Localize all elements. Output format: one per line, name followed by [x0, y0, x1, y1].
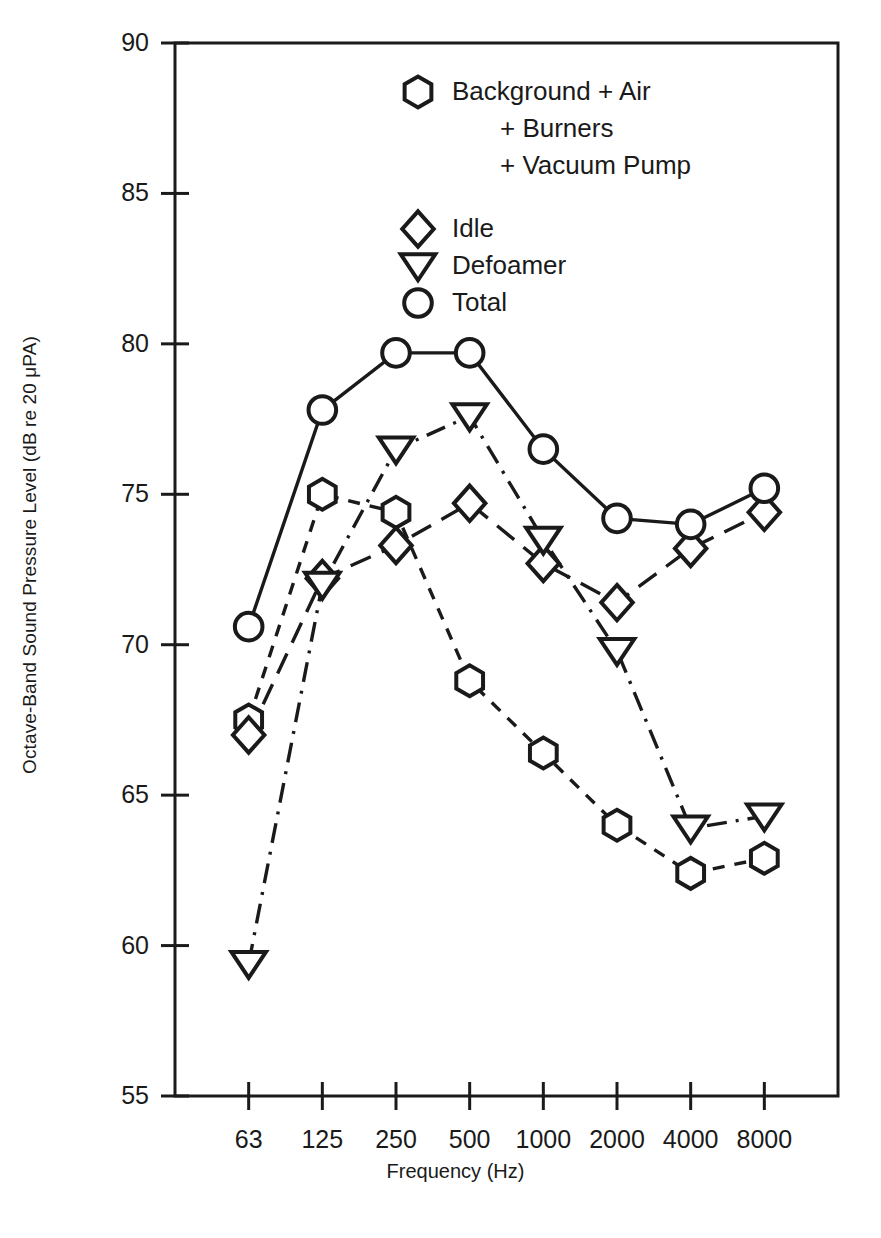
marker-hexagon: [751, 843, 778, 874]
x-tick-label: 250: [375, 1125, 417, 1153]
y-tick-label: 65: [121, 780, 149, 808]
x-axis-label-text: Frequency (Hz): [357, 1160, 525, 1182]
legend-label: Defoamer: [452, 250, 566, 280]
legend-label: Idle: [452, 213, 494, 243]
marker-hexagon: [405, 77, 432, 108]
marker-circle: [751, 474, 779, 502]
x-tick-label: 500: [449, 1125, 491, 1153]
y-tick-label: 60: [121, 931, 149, 959]
chart-figure: Octave-Band Sound Pressure Level (dB re …: [0, 0, 881, 1238]
y-tick-label: 85: [121, 178, 149, 206]
plot-frame: [175, 43, 838, 1096]
y-axis-label: Octave-Band Sound Pressure Level (dB re …: [0, 0, 60, 1110]
marker-hexagon: [677, 858, 704, 889]
marker-triangle-down: [379, 437, 414, 463]
marker-triangle-down: [231, 952, 265, 978]
marker-diamond: [402, 211, 434, 246]
marker-triangle-down: [526, 528, 561, 554]
marker-circle: [456, 339, 484, 367]
marker-circle: [530, 435, 558, 463]
x-tick-label: 63: [235, 1125, 263, 1153]
legend-label: + Vacuum Pump: [500, 150, 691, 180]
marker-circle: [309, 396, 337, 424]
y-tick-label: 75: [121, 479, 149, 507]
marker-triangle-down: [673, 817, 708, 843]
y-tick-label: 70: [121, 630, 149, 658]
marker-diamond: [601, 585, 633, 620]
marker-triangle-down: [452, 404, 487, 430]
x-axis-label: Frequency (Hz): [0, 1160, 881, 1183]
marker-circle: [603, 505, 631, 533]
x-tick-label: 4000: [663, 1125, 719, 1153]
y-tick-label: 90: [121, 28, 149, 56]
legend-label: Background + Air: [452, 76, 651, 106]
marker-triangle-down: [401, 254, 436, 280]
plot-area: 9085807570656055631252505001000200040008…: [0, 0, 881, 1180]
marker-circle: [677, 511, 705, 539]
y-axis-label-text: Octave-Band Sound Pressure Level (dB re …: [19, 336, 41, 774]
marker-hexagon: [456, 665, 483, 696]
marker-triangle-down: [600, 639, 635, 665]
marker-hexagon: [383, 497, 410, 528]
x-tick-label: 2000: [589, 1125, 645, 1153]
legend: Background + Air+ Burners+ Vacuum PumpId…: [401, 76, 691, 317]
legend-label: + Burners: [500, 113, 613, 143]
marker-circle: [235, 613, 263, 641]
marker-hexagon: [530, 738, 557, 769]
legend-label: Total: [452, 287, 507, 317]
x-tick-label: 1000: [516, 1125, 572, 1153]
marker-diamond: [380, 528, 412, 563]
y-tick-label: 55: [121, 1081, 149, 1109]
marker-hexagon: [309, 479, 336, 510]
x-tick-label: 8000: [737, 1125, 793, 1153]
marker-triangle-down: [305, 573, 340, 599]
marker-hexagon: [604, 810, 631, 841]
marker-diamond: [454, 486, 486, 521]
marker-circle: [404, 289, 432, 317]
marker-circle: [382, 339, 410, 367]
x-tick-label: 125: [301, 1125, 343, 1153]
y-tick-label: 80: [121, 329, 149, 357]
